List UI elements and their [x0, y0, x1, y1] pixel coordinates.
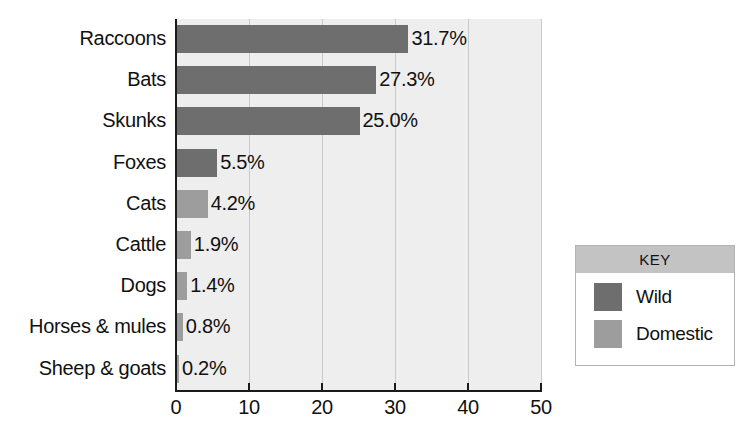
- value-label: 4.2%: [211, 192, 255, 215]
- x-tick-label: 10: [219, 396, 279, 419]
- value-label: 27.3%: [379, 68, 434, 91]
- tick-0: [175, 383, 177, 392]
- value-label: 31.7%: [411, 27, 466, 50]
- x-tick-label: 50: [511, 396, 571, 419]
- legend-label: Domestic: [636, 323, 713, 345]
- bar: [177, 272, 187, 300]
- bar: [177, 107, 360, 135]
- bar: [177, 190, 208, 218]
- category-label: Foxes: [0, 151, 166, 174]
- category-label: Cattle: [0, 233, 166, 256]
- x-tick-label: 30: [365, 396, 425, 419]
- value-label: 25.0%: [363, 109, 418, 132]
- gridline-50: [541, 19, 542, 390]
- gridline-40: [468, 19, 469, 390]
- category-label: Raccoons: [0, 27, 166, 50]
- value-label: 1.9%: [194, 233, 238, 256]
- value-label: 5.5%: [220, 151, 264, 174]
- bar: [177, 25, 408, 53]
- x-tick-label: 20: [292, 396, 352, 419]
- chart-screenshot: 01020304050 RaccoonsBatsSkunksFoxesCatsC…: [0, 0, 751, 444]
- value-label: 0.8%: [186, 315, 230, 338]
- category-label: Skunks: [0, 109, 166, 132]
- tick-30: [394, 383, 396, 392]
- x-tick-label: 40: [438, 396, 498, 419]
- tick-40: [467, 383, 469, 392]
- legend-swatch-icon: [594, 283, 622, 311]
- bar: [177, 355, 179, 383]
- legend-entry: Domestic: [594, 320, 734, 348]
- category-label: Horses & mules: [0, 315, 166, 338]
- category-label: Sheep & goats: [0, 357, 166, 380]
- legend-entry: Wild: [594, 283, 734, 311]
- x-tick-label: 0: [146, 396, 206, 419]
- category-label: Bats: [0, 68, 166, 91]
- bar: [177, 149, 217, 177]
- bar: [177, 66, 376, 94]
- category-label: Dogs: [0, 274, 166, 297]
- legend-title: KEY: [576, 246, 734, 273]
- legend-box: KEY WildDomestic: [575, 245, 735, 366]
- value-label: 1.4%: [190, 274, 234, 297]
- tick-20: [321, 383, 323, 392]
- legend-swatch-icon: [594, 320, 622, 348]
- tick-50: [540, 383, 542, 392]
- legend-label: Wild: [636, 286, 672, 308]
- legend-entries: WildDomestic: [576, 273, 734, 348]
- category-label: Cats: [0, 192, 166, 215]
- tick-10: [248, 383, 250, 392]
- value-label: 0.2%: [182, 357, 226, 380]
- x-axis-line: [175, 390, 542, 392]
- bar: [177, 231, 191, 259]
- bar: [177, 313, 183, 341]
